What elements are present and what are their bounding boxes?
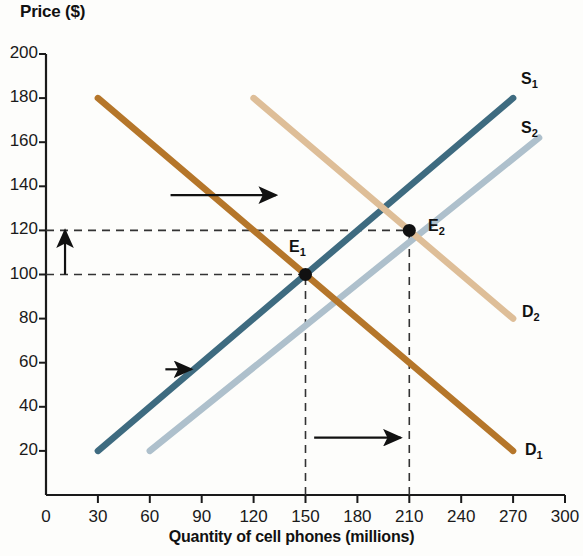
plot-area <box>0 0 583 556</box>
y-tick-label-100: 100 <box>0 264 38 284</box>
x-tick-label-240: 240 <box>441 507 481 527</box>
x-tick-label-180: 180 <box>337 507 377 527</box>
x-tick-label-30: 30 <box>78 507 118 527</box>
y-tick-label-180: 180 <box>0 87 38 107</box>
equilibrium-dot-E1 <box>299 268 312 281</box>
x-tick-label-0: 0 <box>26 507 66 527</box>
y-tick-label-60: 60 <box>0 352 38 372</box>
y-tick-label-160: 160 <box>0 131 38 151</box>
x-tick-label-90: 90 <box>182 507 222 527</box>
x-tick-label-150: 150 <box>286 507 326 527</box>
x-tick-label-300: 300 <box>545 507 583 527</box>
y-tick-label-200: 200 <box>0 43 38 63</box>
equilibrium-dot-E2 <box>403 224 416 237</box>
x-tick-label-60: 60 <box>130 507 170 527</box>
y-tick-label-120: 120 <box>0 219 38 239</box>
y-tick-label-80: 80 <box>0 308 38 328</box>
curve-label-S1: S1 <box>521 70 538 90</box>
supply-demand-chart: Price ($) Quantity of cell phones (milli… <box>0 0 583 556</box>
curve-label-S2: S2 <box>521 119 538 139</box>
x-tick-label-270: 270 <box>493 507 533 527</box>
y-tick-label-40: 40 <box>0 396 38 416</box>
curve-label-D2: D2 <box>522 303 540 323</box>
x-tick-label-210: 210 <box>389 507 429 527</box>
point-label-E2: E2 <box>428 217 445 237</box>
curve-label-D1: D1 <box>525 441 543 461</box>
x-tick-label-120: 120 <box>234 507 274 527</box>
point-label-E1: E1 <box>289 238 306 258</box>
y-tick-label-140: 140 <box>0 175 38 195</box>
y-tick-label-20: 20 <box>0 440 38 460</box>
